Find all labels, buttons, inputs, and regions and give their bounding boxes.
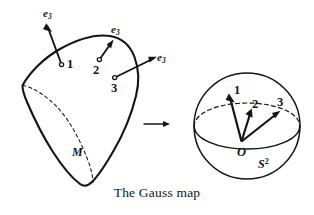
normal-vector-1-head — [43, 23, 52, 32]
normal-vector-3-shaft — [115, 59, 154, 78]
normal-label-e3-point-3: e3 — [157, 52, 166, 63]
unit-sphere — [194, 73, 300, 179]
gauss-map-arrow-head — [163, 121, 170, 127]
sphere-vector-1 — [226, 94, 242, 142]
sphere-label-s2: S2 — [258, 158, 269, 170]
surface-point-label-2: 2 — [93, 64, 99, 77]
surface-patch — [23, 36, 139, 186]
point-marker-1 — [60, 63, 64, 67]
surface-point-label-1: 1 — [67, 58, 73, 71]
sphere-origin-label: O — [237, 146, 246, 159]
normal-label-e3-point-2: e3 — [111, 24, 120, 35]
figure-caption: The Gauss map — [0, 185, 314, 201]
surface-point-label-3: 3 — [111, 82, 117, 95]
gauss-map-figure: e3 e3 e3 1 2 3 M 1 2 3 O S2 The Gauss ma… — [0, 0, 314, 215]
surface-label-m: M — [72, 146, 83, 158]
normal-label-e3-point-1: e3 — [43, 8, 52, 19]
figure-canvas — [0, 0, 314, 215]
point-marker-3 — [113, 76, 117, 80]
surface-point-1 — [43, 23, 64, 66]
surface-outline-path — [23, 36, 139, 186]
surface-point-2 — [97, 40, 113, 62]
sphere-vector-label-1: 1 — [234, 84, 240, 97]
point-marker-2 — [97, 58, 101, 62]
sphere-vector-label-2: 2 — [252, 98, 258, 111]
sphere-vector-label-3: 3 — [277, 96, 283, 109]
normal-vector-1-shaft — [48, 27, 62, 65]
surface-hidden-edge — [23, 85, 93, 182]
normal-vector-3-head — [148, 57, 157, 63]
gauss-map-arrow — [144, 121, 170, 127]
